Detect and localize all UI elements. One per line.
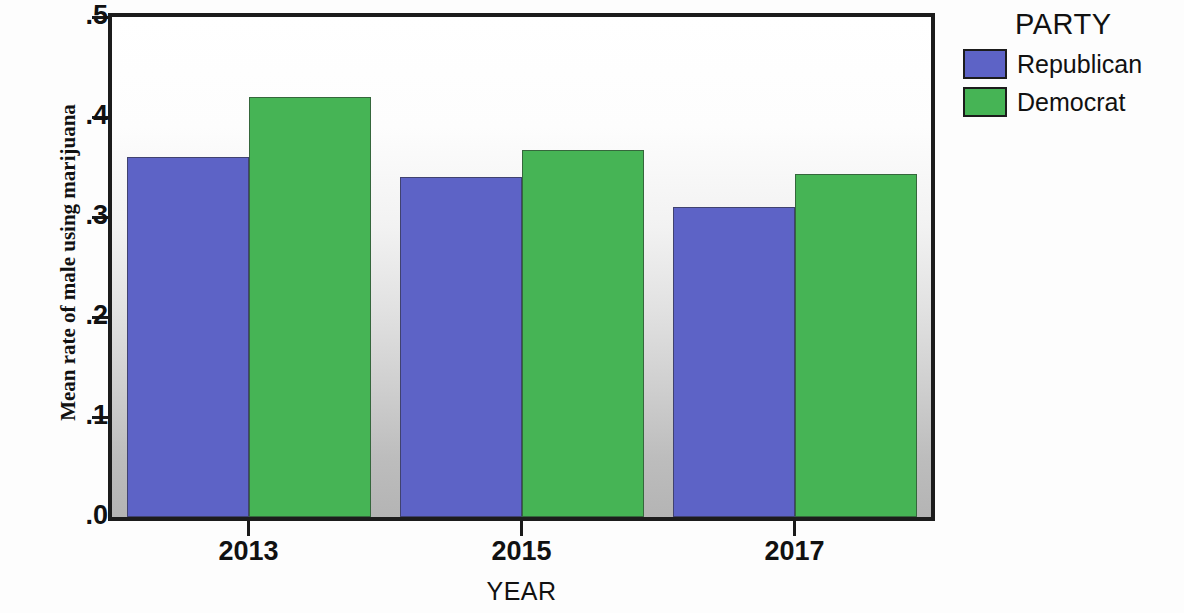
y-tick-label: .3 <box>46 202 108 229</box>
x-axis: YEAR 201320152017 <box>108 521 935 613</box>
legend-item-republican: Republican <box>963 49 1178 79</box>
y-tick-label: .2 <box>46 302 108 329</box>
y-tick-label: .5 <box>46 2 108 29</box>
legend: PARTY RepublicanDemocrat <box>963 8 1178 125</box>
bar-chart-figure: Mean rate of male using marijuana .5.4.3… <box>0 0 1184 613</box>
legend-label: Republican <box>1017 50 1142 79</box>
legend-label: Democrat <box>1017 88 1125 117</box>
x-tick-label: 2013 <box>179 538 319 565</box>
y-axis-ticks: .5.4.3.2.1.0 <box>22 0 108 613</box>
bar-2013-republican <box>127 157 249 517</box>
y-tick-label: .1 <box>46 402 108 429</box>
x-axis-title: YEAR <box>108 577 935 606</box>
y-tick-label: .0 <box>46 502 108 529</box>
bar-2017-democrat <box>795 174 917 517</box>
legend-swatch-republican <box>963 49 1007 79</box>
x-tick-mark <box>520 521 523 536</box>
legend-title: PARTY <box>1015 8 1178 41</box>
legend-entries: RepublicanDemocrat <box>963 49 1178 117</box>
bar-2015-democrat <box>522 150 644 517</box>
x-tick-mark <box>793 521 796 536</box>
legend-swatch-democrat <box>963 87 1007 117</box>
y-tick-label: .4 <box>46 102 108 129</box>
bar-2013-democrat <box>249 97 371 517</box>
plot-area <box>108 13 935 521</box>
bar-2017-republican <box>673 207 795 517</box>
legend-item-democrat: Democrat <box>963 87 1178 117</box>
x-tick-mark <box>247 521 250 536</box>
bar-2015-republican <box>400 177 522 517</box>
bars-container <box>112 17 931 517</box>
x-tick-label: 2015 <box>452 538 592 565</box>
x-tick-label: 2017 <box>725 538 865 565</box>
